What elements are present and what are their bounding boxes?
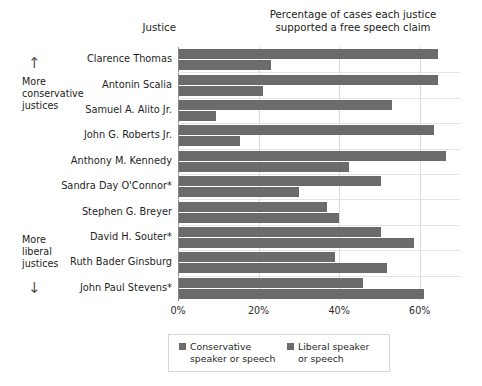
bar-conservative — [179, 176, 381, 186]
legend-label-line1: Conservative — [190, 341, 251, 352]
category-label: Samuel A. Alito Jr. — [12, 104, 172, 115]
bar-liberal — [179, 263, 387, 273]
legend-item-conservative: Conservativespeaker or speech — [179, 341, 275, 364]
category-label: John Paul Stevens* — [12, 282, 172, 293]
category-label: Clarence Thomas — [12, 53, 172, 64]
row-separator — [178, 123, 460, 124]
bar-conservative — [179, 49, 437, 59]
bar-liberal — [179, 187, 298, 197]
row-separator — [178, 174, 460, 175]
category-label: Ruth Bader Ginsburg — [12, 256, 172, 267]
legend-label-line1: Liberal speaker — [298, 341, 369, 352]
bar-liberal — [179, 111, 216, 121]
row-separator — [178, 72, 460, 73]
category-label: David H. Souter* — [12, 231, 172, 242]
row-separator — [178, 276, 460, 277]
row-separator — [178, 225, 460, 226]
bar-liberal — [179, 136, 240, 146]
x-axis-tick-label: 60% — [409, 305, 430, 316]
category-label: Antonin Scalia — [12, 79, 172, 90]
category-label: Anthony M. Kennedy — [12, 155, 172, 166]
bar-conservative — [179, 151, 446, 161]
legend-item-liberal: Liberal speakeror speech — [287, 341, 369, 364]
chart-legend: Conservativespeaker or speech Liberal sp… — [168, 334, 390, 372]
legend-swatch-icon — [179, 343, 186, 350]
bar-conservative — [179, 227, 381, 237]
bar-conservative — [179, 278, 363, 288]
bar-conservative — [179, 202, 327, 212]
bar-liberal — [179, 213, 339, 223]
bar-liberal — [179, 86, 262, 96]
bar-conservative — [179, 100, 391, 110]
bar-liberal — [179, 289, 423, 299]
category-label: Stephen G. Breyer — [12, 206, 172, 217]
bar-conservative — [179, 75, 437, 85]
chart-title: Percentage of cases each justice support… — [228, 8, 478, 34]
row-separator — [178, 250, 460, 251]
bar-conservative — [179, 252, 335, 262]
plot-area — [178, 47, 460, 301]
bar-conservative — [179, 125, 433, 135]
bar-liberal — [179, 60, 270, 70]
legend-swatch-icon — [287, 343, 294, 350]
category-column-header: Justice — [120, 22, 176, 33]
chart-container: Percentage of cases each justice support… — [0, 0, 482, 386]
row-separator — [178, 199, 460, 200]
row-separator — [178, 149, 460, 150]
x-axis-tick-label: 40% — [328, 305, 349, 316]
category-label: John G. Roberts Jr. — [12, 129, 172, 140]
legend-label-line2: speaker or speech — [190, 353, 275, 365]
category-label: Sandra Day O'Connor* — [12, 180, 172, 191]
bar-liberal — [179, 162, 349, 172]
legend-label-line2: or speech — [298, 353, 369, 365]
x-axis-tick-label: 0% — [170, 305, 185, 316]
bar-liberal — [179, 238, 413, 248]
row-separator — [178, 98, 460, 99]
x-axis-tick-label: 20% — [248, 305, 269, 316]
